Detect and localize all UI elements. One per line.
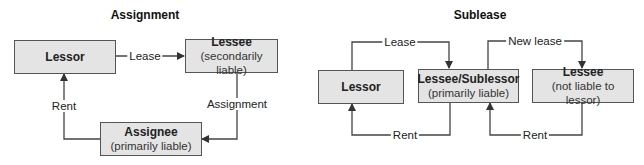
sublease-lessor-box: Lessor	[318, 70, 404, 104]
assignment-lessee-box: Lessee (secondarily liable)	[185, 39, 278, 73]
node-sublabel: (primarily liable)	[110, 139, 191, 153]
node-label: Lessee	[211, 35, 252, 49]
node-sublabel: (primarily liable)	[428, 86, 509, 100]
sublease-lessee-box: Lessee (not liable to lessor)	[532, 69, 634, 103]
edge-label-lease: Lease	[127, 50, 162, 62]
node-label: Assignee	[124, 125, 177, 139]
edge-label-new-lease: New lease	[506, 35, 564, 47]
sublease-sublessor-box: Lessee/Sublessor (primarily liable)	[418, 69, 519, 103]
edge-label-assignment: Assignment	[205, 98, 269, 110]
node-sublabel: (secondarily liable)	[186, 49, 277, 77]
assignment-lessor-box: Lessor	[14, 40, 116, 74]
node-sublabel: (not liable to lessor)	[533, 79, 633, 107]
edge-label-rent-to-sublessor: Rent	[521, 129, 549, 141]
node-label: Lessor	[45, 50, 84, 64]
edge-label-lease: Lease	[382, 36, 417, 48]
edge-label-rent: Rent	[50, 100, 78, 112]
assignment-assignee-box: Assignee (primarily liable)	[100, 122, 202, 156]
node-label: Lessee/Sublessor	[417, 72, 519, 86]
sublease-title: Sublease	[454, 8, 507, 22]
node-label: Lessee	[563, 65, 604, 79]
edge-label-rent-to-lessor: Rent	[391, 129, 419, 141]
node-label: Lessor	[341, 80, 380, 94]
assignment-title: Assignment	[111, 8, 180, 22]
